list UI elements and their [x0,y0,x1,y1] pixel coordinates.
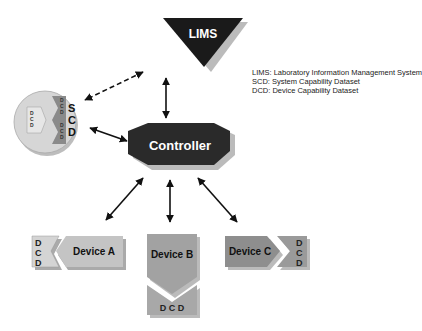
legend: LIMS: Laboratory Information Management … [252,68,422,95]
edge-controller-device-a [106,178,143,220]
device-a-dcd-d1: D [35,238,42,248]
device-c-node: Device C D C D [225,236,310,270]
svg-text:D: D [68,126,76,138]
device-c-dcd-d1: D [296,238,303,248]
lims-node: LIMS [163,18,248,72]
device-b-label: Device B [151,249,193,260]
device-a-label: Device A [73,246,115,257]
device-a-node: D C D Device A [32,236,126,270]
legend-item-scd: SCD: System Capability Dataset [252,77,422,86]
edge-controller-device-c [198,178,237,222]
edge-lims-scd [85,72,143,100]
svg-text:D: D [60,109,64,115]
edge-scd-controller [90,128,127,141]
controller-node: Controller [128,123,235,170]
legend-item-dcd: DCD: Device Capability Dataset [252,86,422,95]
svg-text:D: D [60,134,64,140]
svg-text:C: C [68,114,76,126]
svg-text:S: S [68,102,75,114]
device-a-dcd-d2: D [35,258,42,268]
device-b-dcd: D C D [160,303,185,313]
svg-text:D: D [30,122,34,128]
legend-item-lims: LIMS: Laboratory Information Management … [252,68,422,77]
device-c-dcd-d2: D [296,258,303,268]
device-b-node: Device B D C D [147,234,200,318]
device-c-dcd-c: C [296,248,303,258]
lims-label: LIMS [189,27,218,41]
scd-node: DCD DCD DCD SCD [14,91,78,156]
device-c-label: Device C [229,246,271,257]
device-a-dcd-c: C [35,248,42,258]
controller-label: Controller [149,138,211,153]
